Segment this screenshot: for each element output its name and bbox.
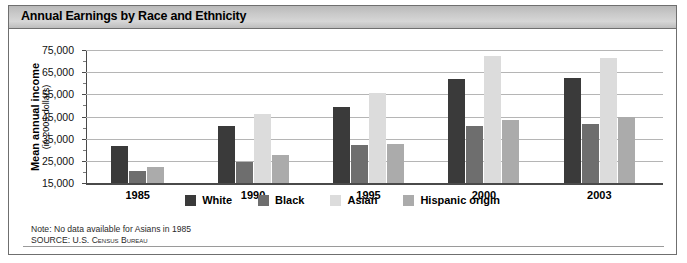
y-axis-tick [82,72,86,73]
legend-swatch [258,195,269,206]
y-axis-tick-label: 65,000 [42,66,74,78]
bar [502,120,519,183]
y-axis-tick-label: 35,000 [42,133,74,145]
legend-item: Hispanic origin [403,194,499,206]
y-axis-tick-label: 45,000 [42,111,74,123]
y-axis-minor-tick [83,128,86,129]
bar [129,171,146,183]
bar [111,146,128,183]
bar [448,79,465,183]
y-axis-minor-tick [83,83,86,84]
bar [582,124,599,183]
chart-legend: WhiteBlackAsianHispanic origin [9,194,676,206]
legend-label: White [202,194,232,206]
bar [147,167,164,183]
bar [351,145,368,183]
y-axis-tick [82,117,86,118]
chart-notes: Note: No data available for Asians in 19… [31,224,191,246]
y-axis-tick-label: 25,000 [42,155,74,167]
bar [218,126,235,183]
page-title: Annual Earnings by Race and Ethnicity [21,9,246,23]
bar [618,117,635,184]
panel-title-bar: Annual Earnings by Race and Ethnicity [9,6,676,29]
chart-panel: Annual Earnings by Race and Ethnicity Me… [8,5,677,255]
bar [484,56,501,183]
legend-label: Black [275,194,304,206]
y-axis-tick [82,50,86,51]
note-text: Note: No data available for Asians in 19… [31,224,191,235]
x-axis-line [86,183,663,185]
legend-swatch [330,195,341,206]
y-axis-tick-label: 55,000 [42,88,74,100]
bar [333,107,350,183]
legend-item: White [185,194,232,206]
legend-item: Asian [330,194,377,206]
y-axis-tick-label: 75,000 [42,44,74,56]
footer-divider [23,246,664,247]
y-axis-tick [82,183,86,184]
bar [466,126,483,183]
legend-swatch [185,195,196,206]
legend-swatch [403,195,414,206]
bar [387,144,404,183]
bar [272,155,289,183]
bar [369,93,386,183]
y-axis-minor-tick [83,105,86,106]
bar [600,58,617,183]
legend-label: Hispanic origin [420,194,499,206]
y-axis-tick-labels: 15,00025,00035,00045,00055,00065,00075,0… [9,50,78,183]
bar [236,162,253,183]
plot-area: 19851990199520002003 [86,50,663,183]
source-text: SOURCE: U.S. Census Bureau [31,235,191,246]
gridline [86,50,663,51]
y-axis-minor-tick [83,172,86,173]
y-axis-tick-label: 15,000 [42,177,74,189]
y-axis-tick [82,161,86,162]
y-axis-tick [82,94,86,95]
y-axis-minor-tick [83,61,86,62]
bar [564,78,581,183]
gridline [86,72,663,73]
y-axis-minor-tick [83,150,86,151]
legend-label: Asian [347,194,377,206]
y-axis-tick [82,139,86,140]
legend-item: Black [258,194,304,206]
bar [254,114,271,183]
